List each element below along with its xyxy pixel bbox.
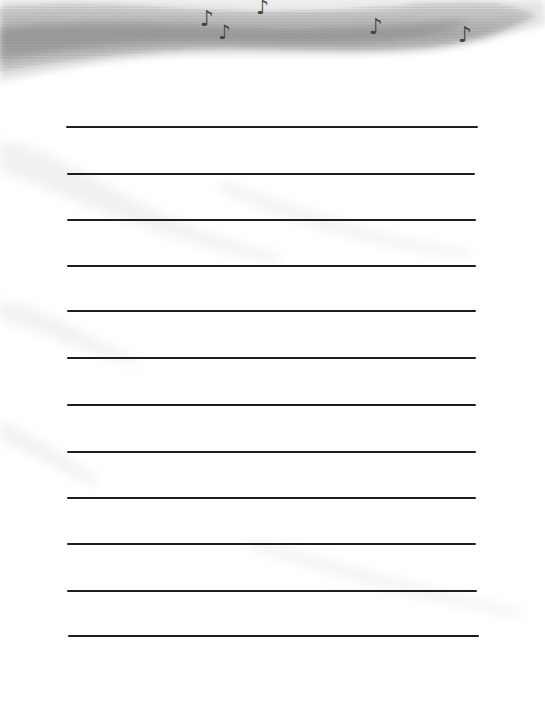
music-note-icon: ♪: [218, 22, 231, 42]
music-note-icon: ♪: [200, 8, 214, 30]
writing-line: [67, 590, 477, 592]
writing-line: [67, 451, 476, 453]
writing-line: [67, 543, 476, 545]
writing-line: [66, 126, 478, 128]
writing-line: [67, 310, 476, 312]
writing-line: [67, 173, 475, 175]
music-note-icon: ♪: [458, 24, 472, 46]
writing-line: [67, 404, 476, 406]
writing-line: [67, 357, 476, 359]
writing-line: [68, 635, 479, 637]
music-note-icon: ♪: [369, 16, 383, 38]
music-note-icon: ♪: [256, 0, 269, 17]
lined-paper-page: ♪ ♪ ♪ ♪ ♪: [0, 0, 545, 719]
writing-line: [67, 265, 476, 267]
writing-line: [67, 219, 476, 221]
header-swoosh: [0, 0, 545, 110]
writing-line: [67, 497, 476, 499]
